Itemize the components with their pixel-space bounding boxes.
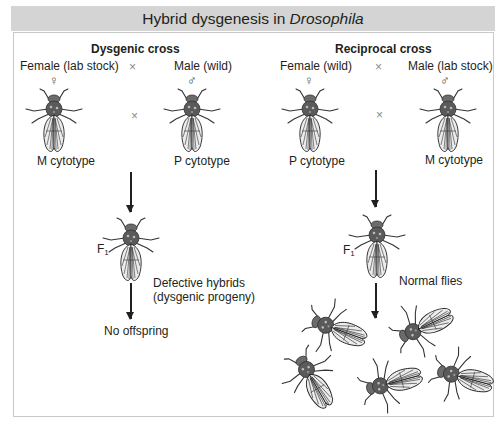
male-fly-p-cytotype-icon — [162, 87, 222, 153]
dysgenic-cross-symbol-mid: × — [131, 109, 138, 123]
reciprocal-male-label: Male (lab stock) — [408, 59, 493, 73]
female-symbol-icon: ♀ — [49, 73, 59, 88]
dysgenic-heading: Dysgenic cross — [91, 42, 180, 56]
reciprocal-male-symbol-icon: ♂ — [440, 73, 450, 88]
reciprocal-female-symbol-icon: ♀ — [304, 73, 314, 88]
f1-reciprocal-fly-icon — [347, 213, 407, 279]
dysgenic-outcome: No offspring — [104, 324, 168, 338]
reciprocal-heading: Reciprocal cross — [335, 42, 432, 56]
female-fly-m-cytotype-icon — [24, 87, 84, 153]
f1-dysgenic-fly-icon — [101, 216, 161, 282]
reciprocal-cross-symbol-top: × — [375, 60, 382, 74]
dysgenic-female-cytotype: M cytotype — [37, 154, 95, 168]
reciprocal-female-label: Female (wild) — [280, 59, 352, 73]
male-fly-m-cytotype-icon — [418, 87, 478, 153]
reciprocal-arrow-to-f1 — [375, 170, 377, 207]
dysgenic-male-cytotype: P cytotype — [174, 154, 230, 168]
diagram-title: Hybrid dysgenesis in Drosophila — [11, 6, 495, 31]
reciprocal-male-cytotype: M cytotype — [425, 153, 483, 167]
dysgenic-female-label: Female (lab stock) — [20, 59, 119, 73]
reciprocal-female-cytotype: P cytotype — [289, 154, 345, 168]
dysgenic-arrow-to-f1 — [130, 172, 132, 212]
male-symbol-icon: ♂ — [187, 73, 197, 88]
dysgenic-progeny-line2: (dysgenic progeny) — [153, 290, 255, 304]
dysgenic-male-label: Male (wild) — [174, 59, 232, 73]
reciprocal-progeny-label: Normal flies — [399, 274, 462, 288]
dysgenic-arrow-to-outcome — [130, 283, 132, 319]
title-prefix: Hybrid dysgenesis in — [142, 10, 289, 27]
dysgenic-progeny-line1: Defective hybrids — [153, 276, 245, 290]
reciprocal-cross-symbol-mid: × — [376, 108, 383, 122]
title-genus: Drosophila — [290, 10, 364, 27]
dysgenic-cross-symbol-top: × — [129, 60, 136, 74]
female-fly-p-cytotype-icon — [280, 87, 340, 153]
